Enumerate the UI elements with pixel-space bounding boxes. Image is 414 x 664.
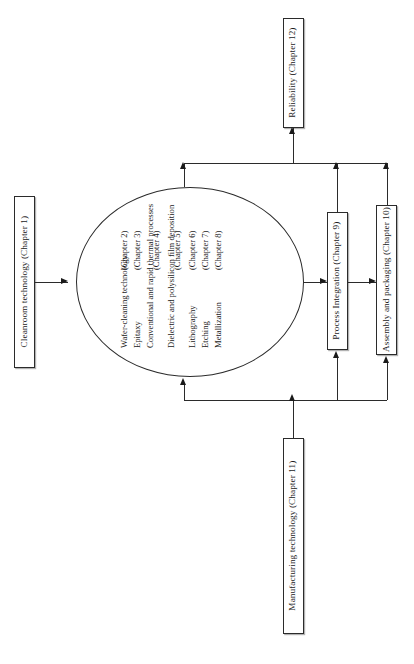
box-manufacturing-technology-label: Manufacturing technology (Chapter 11) [289,461,298,611]
connector-reliability-bus [184,163,387,164]
box-cleanroom-technology-label: Cleanroom technology (Chapter 1) [20,216,29,348]
box-assembly-and-packaging[interactable]: Assembly and packaging (Chapter 10) [376,205,397,355]
box-process-integration[interactable]: Process Integration (Chapter 9) [327,212,348,350]
process-modules-ellipse [76,187,304,377]
connector-bus-to-process-integration [337,357,338,400]
process-name-metallization: Metallization [214,302,224,348]
arrowhead-process-integration-to-assembly [369,278,376,284]
connector-manufacturing-to-bus [293,400,294,438]
arrowhead-bus-to-process-integration [333,351,339,358]
chapter-ref-7: (Chapter 7) [201,231,211,270]
process-name-epitaxy: Epitaxy [133,321,143,348]
process-name-thermal: Conventional and rapid thermal processes [146,204,156,348]
chapter-ref-3: (Chapter 3) [133,231,143,270]
arrowhead-bus-to-ellipse [180,378,186,385]
arrowhead-manufacturing-to-bus [289,394,295,401]
process-name-dielectric: Dielectric and polysilicon film depositi… [167,205,177,348]
arrowhead-bus-to-assembly [383,356,389,363]
arrowhead-process-integration-to-bus [333,162,339,169]
arrowhead-ellipse-to-process-integration [320,278,327,284]
box-reliability-label: Reliability (Chapter 12) [289,28,298,118]
connector-bus-to-assembly [387,362,388,400]
chapter-ref-8: (Chapter 8) [214,231,224,270]
box-assembly-and-packaging-label: Assembly and packaging (Chapter 10) [382,208,391,353]
arrowhead-cleanroom-to-ellipse [61,278,68,284]
arrowhead-assembly-to-bus [383,162,389,169]
connector-bus-to-ellipse [184,385,185,400]
connector-process-integration-to-bus [337,163,338,212]
arrowhead-ellipse-to-bus [180,162,186,169]
box-manufacturing-technology[interactable]: Manufacturing technology (Chapter 11) [283,438,304,634]
box-process-integration-label: Process Integration (Chapter 9) [333,222,342,340]
box-reliability[interactable]: Reliability (Chapter 12) [283,18,304,128]
process-name-lithography: Lithography [188,306,198,348]
connector-manufacturing-bus [184,400,387,401]
chapter-ref-5: (Chapter 5) [173,231,183,270]
arrowhead-to-reliability [289,127,295,134]
chapter-ref-2: (Chapter 2) [120,231,130,270]
chapter-ref-6: (Chapter 6) [188,231,198,270]
box-cleanroom-technology[interactable]: Cleanroom technology (Chapter 1) [14,196,35,368]
process-name-etching: Etching [201,321,211,348]
figure-canvas: Reliability (Chapter 12) Wafer-cleaning … [0,0,414,664]
chapter-ref-4: (Chapter 4) [152,231,162,270]
